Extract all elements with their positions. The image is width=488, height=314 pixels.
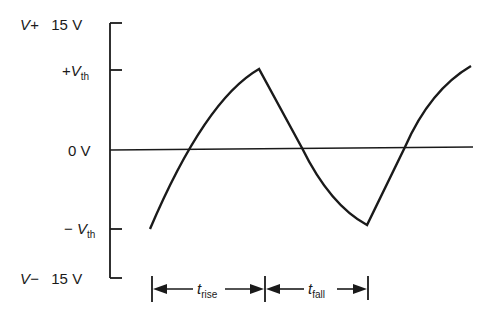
label-15v: 15 V [51, 16, 82, 33]
subscript: th [81, 71, 89, 82]
zero-baseline [110, 147, 473, 150]
label-minus-vth: − Vth [64, 221, 95, 236]
rise-arrowhead-left-icon [153, 284, 167, 294]
fall-arrowhead-left-icon [266, 284, 280, 294]
label-vplus: V+ [20, 16, 39, 33]
sign: + [62, 62, 71, 79]
rise-arrowhead-right-icon [250, 284, 264, 294]
symbol: V [71, 62, 81, 79]
label-vminus: V− [20, 270, 39, 287]
label-minus-15v: V− 15 V [20, 271, 82, 286]
label-t-fall: tfall [308, 281, 325, 296]
fall-arrowhead-right-icon [353, 284, 367, 294]
subscript: th [87, 229, 95, 240]
label-15v: 15 V [51, 270, 82, 287]
subscript: rise [201, 289, 217, 300]
label-t-rise: trise [197, 281, 217, 296]
subscript: fall [312, 289, 325, 300]
sign: − [64, 220, 73, 237]
label-zero-v: 0 V [68, 143, 91, 158]
label-plus-15v: V+ 15 V [20, 17, 82, 32]
label-plus-vth: +Vth [62, 63, 89, 78]
symbol: V [77, 220, 87, 237]
